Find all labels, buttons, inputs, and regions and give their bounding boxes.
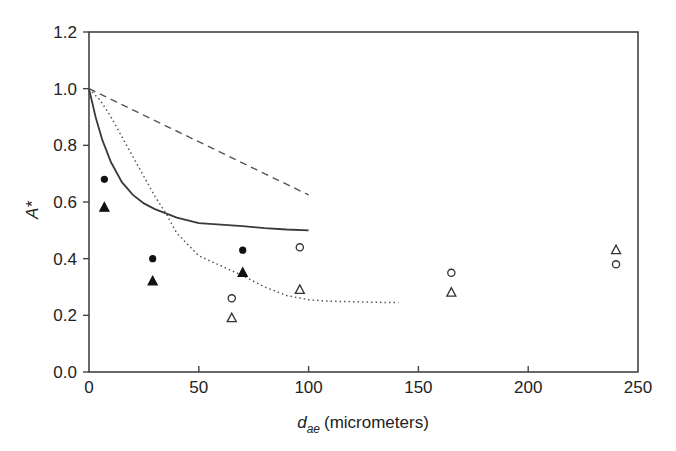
marker-circle-open [448, 269, 455, 276]
solid-line [89, 89, 309, 231]
marker-triangle-open [227, 313, 236, 322]
marker-circle-filled [149, 255, 156, 262]
marker-series [100, 176, 621, 322]
chart: 0.00.20.40.60.81.01.2 050100150200250 A*… [0, 0, 676, 451]
y-tick-label: 1.2 [53, 23, 77, 42]
marker-triangle-filled [100, 203, 109, 212]
x-tick-label: 50 [189, 378, 208, 397]
x-tick-label: 150 [404, 378, 432, 397]
x-tick-label: 100 [294, 378, 322, 397]
marker-circle-open [612, 261, 619, 268]
marker-triangle-filled [238, 268, 247, 277]
x-tick-label: 0 [84, 378, 93, 397]
marker-triangle-open [447, 288, 456, 297]
x-axis-label-unit: (micrometers) [324, 413, 429, 432]
marker-triangle-open [612, 245, 621, 254]
y-axis-ticks: 0.00.20.40.60.81.01.2 [53, 23, 89, 382]
dashed-line [89, 89, 309, 195]
y-tick-label: 0.0 [53, 363, 77, 382]
x-tick-label: 250 [624, 378, 652, 397]
marker-triangle-open [295, 285, 304, 294]
marker-circle-open [228, 295, 235, 302]
marker-circle-open [296, 244, 303, 251]
x-axis-label: dae(micrometers) [297, 413, 429, 436]
marker-circle-filled [239, 247, 246, 254]
y-tick-label: 0.6 [53, 193, 77, 212]
x-tick-label: 200 [514, 378, 542, 397]
plot-frame [89, 32, 638, 372]
x-axis-ticks: 050100150200250 [84, 366, 652, 397]
y-tick-label: 0.4 [53, 250, 77, 269]
y-axis-label: A* [23, 200, 42, 220]
marker-triangle-filled [148, 276, 157, 285]
y-tick-label: 0.8 [53, 136, 77, 155]
y-tick-label: 0.2 [53, 306, 77, 325]
marker-circle-filled [101, 176, 108, 183]
x-axis-label-subscript: ae [307, 422, 321, 436]
y-tick-label: 1.0 [53, 80, 77, 99]
